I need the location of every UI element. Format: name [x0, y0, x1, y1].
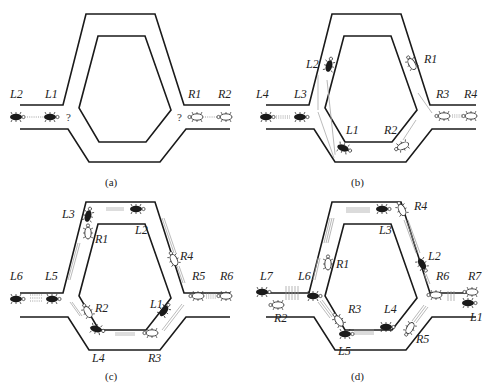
white-ant-icon	[83, 224, 93, 239]
label-L7: L7	[259, 269, 274, 283]
label-R7: R7	[467, 269, 482, 283]
label-R5: R5	[415, 332, 429, 346]
label-L4: L4	[383, 302, 397, 316]
white-ant-icon	[323, 255, 333, 270]
question-mark: ?	[66, 111, 71, 123]
white-ant-icon	[188, 112, 203, 122]
label-R1: R1	[335, 257, 349, 271]
black-ant-icon	[256, 287, 271, 297]
panel-b: L4 L3 L2 L1 R1 R2 R3 R4 (b)	[255, 14, 477, 189]
black-ant-icon	[10, 112, 25, 122]
white-ant-icon	[217, 112, 232, 122]
white-ant-icon	[435, 111, 450, 121]
label-L6: L6	[297, 269, 311, 283]
black-ant-icon	[462, 298, 477, 308]
label-L3: L3	[293, 87, 307, 101]
caption-d: (d)	[351, 370, 364, 383]
black-ant-icon	[10, 294, 25, 304]
black-ant-icon	[260, 112, 275, 122]
label-R2: R2	[94, 301, 108, 315]
label-L5: L5	[44, 269, 58, 283]
panel-d: L7 L6 R1 L3 R4 L2 R6 R7 R2 R3 L4 L5 R5 L…	[256, 199, 483, 383]
white-ant-icon	[462, 111, 477, 121]
label-R1: R1	[423, 52, 437, 66]
black-ant-icon	[44, 112, 59, 122]
label-R6: R6	[219, 269, 233, 283]
ant-bridge-diagram: L2 L1 R1 R2 ? ? (a) L4 L3 L2 L1 R1 R2 R3…	[0, 0, 486, 384]
question-mark: ?	[177, 111, 182, 123]
black-ant-icon	[130, 204, 145, 214]
label-L2: L2	[134, 223, 148, 237]
white-ant-icon	[269, 300, 284, 310]
label-L6: L6	[9, 269, 23, 283]
label-R3: R3	[147, 351, 161, 365]
label-R5: R5	[191, 269, 205, 283]
black-ant-icon	[89, 323, 106, 337]
label-R2: R2	[217, 87, 231, 101]
label-R6: R6	[435, 269, 449, 283]
label-R1: R1	[187, 87, 201, 101]
label-R2: R2	[383, 123, 397, 137]
black-ant-icon	[376, 204, 391, 214]
label-L1: L1	[44, 87, 58, 101]
label-L2: L2	[9, 87, 23, 101]
label-L4: L4	[255, 87, 269, 101]
label-R2: R2	[273, 311, 287, 325]
label-L1: L1	[345, 123, 359, 137]
caption-b: (b)	[351, 176, 364, 189]
white-ant-icon	[79, 302, 95, 320]
panel-c: L6 L5 L3 R1 L2 R4 R5 R6 R2 L1 L4 R3 (c)	[9, 202, 233, 383]
label-R4: R4	[413, 199, 427, 213]
label-L2: L2	[305, 57, 319, 71]
white-ant-icon	[463, 287, 478, 297]
label-L3: L3	[378, 223, 392, 237]
label-R1: R1	[94, 232, 108, 246]
label-L3: L3	[61, 207, 75, 221]
white-ant-icon	[166, 250, 181, 268]
black-ant-icon	[336, 141, 354, 156]
label-L1: L1	[469, 310, 483, 324]
caption-a: (a)	[105, 176, 118, 189]
label-L5: L5	[337, 344, 351, 358]
white-ant-icon	[401, 320, 417, 338]
label-R4: R4	[179, 249, 193, 263]
caption-c: (c)	[105, 370, 118, 383]
label-R3: R3	[347, 302, 361, 316]
label-R3: R3	[435, 87, 449, 101]
black-ant-icon	[46, 294, 61, 304]
panel-a: L2 L1 R1 R2 ? ? (a)	[9, 14, 232, 189]
label-L2: L2	[427, 249, 441, 263]
white-ant-icon	[393, 139, 411, 154]
label-R4: R4	[463, 87, 477, 101]
label-L4: L4	[91, 351, 105, 365]
black-ant-icon	[294, 112, 309, 122]
